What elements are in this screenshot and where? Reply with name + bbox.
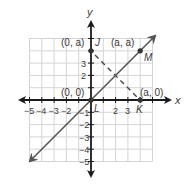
coord-label-k: (a, 0) <box>140 87 163 98</box>
y-tick-label: −4 <box>79 145 89 155</box>
x-tick-label: 3 <box>125 106 130 116</box>
y-tick-label: 3 <box>81 59 86 69</box>
x-tick-label: 2 <box>113 106 118 116</box>
y-tick-label: −3 <box>79 133 89 143</box>
point-m <box>138 48 143 53</box>
y-tick-label: 2 <box>81 71 86 81</box>
x-tick-label: −5 <box>24 106 34 116</box>
coord-label-l: (0, 0) <box>61 87 84 98</box>
coord-label-j: (0, a) <box>61 37 84 48</box>
x-axis-label: x <box>174 94 181 106</box>
point-label-l: L <box>94 103 100 114</box>
point-label-k: K <box>136 104 144 115</box>
y-tick-label: −1 <box>79 108 89 118</box>
point-j <box>88 48 93 53</box>
y-tick-label: −5 <box>79 157 89 167</box>
point-label-j: J <box>94 37 101 48</box>
x-tick-label: −4 <box>36 106 46 116</box>
coord-label-m: (a, a) <box>111 37 134 48</box>
x-tick-label: −3 <box>49 106 59 116</box>
point-k <box>138 97 143 102</box>
x-tick-label: −2 <box>61 106 71 116</box>
point-label-m: M <box>144 52 153 63</box>
y-tick-label: −2 <box>79 120 89 130</box>
point-l <box>88 97 93 102</box>
coordinate-plane: y x −5 −4 −3 −2 2 3 3 2 −1 −2 −3 −4 −5 J… <box>0 0 187 189</box>
y-axis-label: y <box>86 6 94 18</box>
